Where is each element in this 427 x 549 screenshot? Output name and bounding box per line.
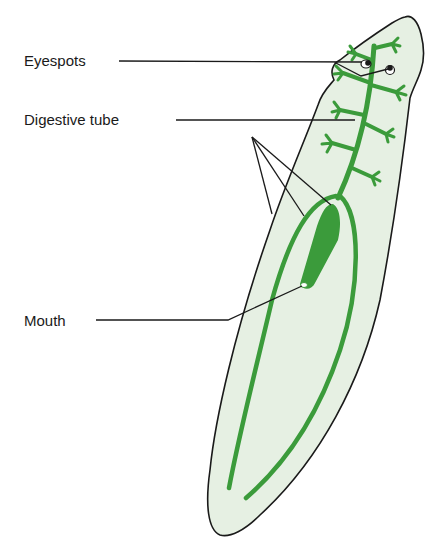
- label-digestive-tube: Digestive tube: [24, 112, 119, 127]
- digestive-tube-leader-3: [252, 137, 272, 214]
- label-mouth: Mouth: [24, 313, 66, 328]
- planarian-diagram: [0, 0, 427, 549]
- label-eyespots: Eyespots: [24, 53, 86, 68]
